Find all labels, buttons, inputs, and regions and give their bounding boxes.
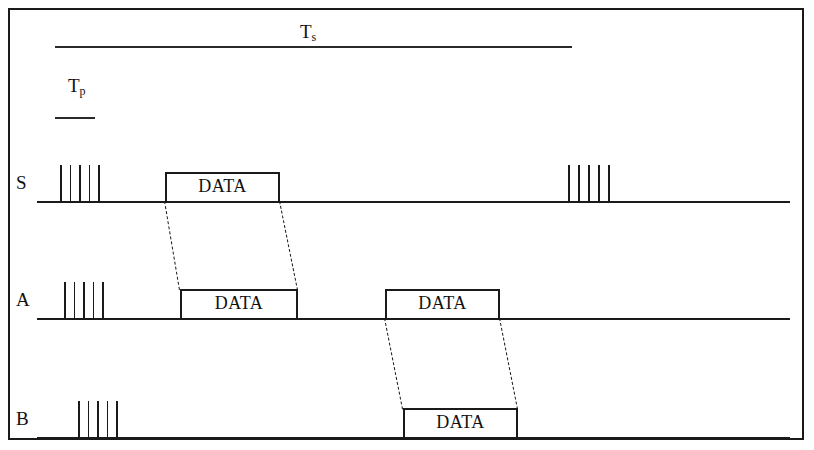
station-b-baseline [37, 437, 790, 439]
preamble-burst-s-2-tick [598, 165, 600, 201]
preamble-burst-s-1-tick [89, 165, 91, 201]
slot-time-label: Ts [300, 22, 316, 41]
preamble-burst-s-1 [60, 165, 98, 201]
preamble-burst-s-2-tick [578, 165, 580, 201]
preamble-burst-s-2-tick [568, 165, 570, 201]
data-packet-a-1-label: DATA [182, 293, 296, 314]
preamble-burst-s-1-tick [70, 165, 72, 201]
data-packet-a-1: DATA [180, 289, 298, 318]
preamble-burst-s-1-tick [79, 165, 81, 201]
data-packet-a-2: DATA [385, 289, 500, 318]
preamble-burst-a-1 [64, 282, 102, 318]
preamble-burst-s-2-tick [588, 165, 590, 201]
preamble-burst-s-2 [568, 165, 608, 201]
data-packet-a-2-label: DATA [387, 293, 498, 314]
preamble-burst-a-1-tick [74, 282, 76, 318]
preamble-burst-a-1-tick [93, 282, 95, 318]
preamble-burst-b-1-tick [97, 401, 99, 437]
preamble-burst-b-1-tick [107, 401, 109, 437]
data-packet-b-1: DATA [403, 408, 518, 437]
preamble-burst-b-1-tick [116, 401, 118, 437]
station-a-label: A [16, 290, 30, 309]
station-s-baseline [37, 201, 790, 203]
slot-time-bar [55, 46, 572, 48]
propagation-time-bar [55, 117, 95, 119]
preamble-burst-b-1-tick [78, 401, 80, 437]
preamble-burst-b-1 [78, 401, 116, 437]
figure-border [8, 8, 804, 440]
data-packet-s-1-label: DATA [167, 176, 278, 197]
station-b-label: B [16, 409, 29, 428]
timing-diagram-figure: TsTp SDATAADATADATABDATA [0, 0, 814, 450]
propagation-time-label: Tp [68, 76, 86, 95]
preamble-burst-b-1-tick [88, 401, 90, 437]
data-packet-s-1: DATA [165, 172, 280, 201]
station-s-label: S [16, 173, 27, 192]
data-packet-b-1-label: DATA [405, 412, 516, 433]
station-a-baseline [37, 318, 790, 320]
preamble-burst-s-2-tick [608, 165, 610, 201]
preamble-burst-a-1-tick [83, 282, 85, 318]
preamble-burst-s-1-tick [60, 165, 62, 201]
preamble-burst-a-1-tick [64, 282, 66, 318]
preamble-burst-s-1-tick [98, 165, 100, 201]
preamble-burst-a-1-tick [102, 282, 104, 318]
